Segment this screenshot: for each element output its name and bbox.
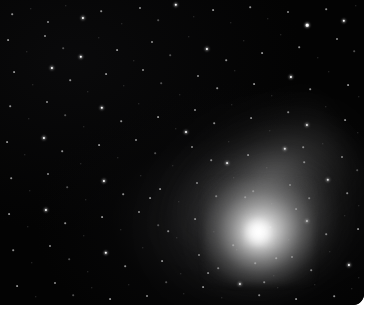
star (72, 294, 74, 296)
star (103, 180, 105, 182)
star (212, 9, 214, 11)
star (269, 130, 270, 131)
star (197, 75, 199, 77)
star (180, 273, 181, 274)
star (68, 258, 70, 260)
star (344, 215, 345, 216)
star (121, 23, 122, 24)
star (87, 271, 88, 272)
star (45, 209, 47, 211)
star (275, 257, 277, 259)
star (351, 288, 352, 289)
star (302, 146, 304, 148)
star (347, 84, 349, 86)
star (128, 284, 129, 285)
star (336, 38, 338, 40)
star (357, 132, 358, 133)
star (35, 296, 36, 297)
star (64, 222, 66, 224)
star (325, 8, 327, 10)
star (183, 293, 184, 294)
star (357, 228, 359, 230)
star (258, 294, 260, 296)
star (306, 24, 309, 27)
star (185, 131, 187, 133)
star (215, 195, 217, 197)
star (207, 272, 209, 274)
star (298, 46, 300, 48)
star (98, 37, 99, 38)
star (13, 71, 15, 73)
star (175, 128, 176, 129)
star (329, 251, 330, 252)
star (322, 143, 323, 144)
star (101, 216, 103, 218)
star (269, 226, 271, 228)
page-root (0, 0, 386, 323)
star (310, 269, 312, 271)
star (157, 19, 159, 21)
star (232, 244, 234, 246)
astrophoto-plate (0, 0, 364, 305)
star (280, 34, 281, 35)
star (26, 51, 27, 52)
star (142, 247, 143, 248)
star (244, 196, 246, 198)
star (82, 17, 84, 19)
star (333, 295, 335, 297)
star (356, 169, 358, 171)
star (69, 79, 71, 81)
star (193, 16, 194, 17)
star (179, 94, 180, 95)
star (225, 59, 227, 61)
star (217, 267, 219, 269)
star (194, 218, 196, 220)
star (6, 141, 8, 143)
star (234, 70, 235, 71)
star (30, 8, 31, 9)
star (43, 137, 45, 139)
star (167, 230, 169, 232)
star (109, 298, 111, 300)
star (61, 150, 63, 152)
star (105, 252, 107, 254)
star (295, 298, 297, 300)
star (191, 146, 193, 148)
star (11, 13, 13, 15)
star (346, 192, 348, 194)
star (358, 205, 359, 206)
star (213, 231, 214, 232)
star (341, 156, 343, 158)
star (317, 57, 318, 58)
star (226, 162, 228, 164)
star (253, 83, 255, 85)
star (87, 91, 88, 92)
star (348, 264, 350, 266)
star (83, 235, 84, 236)
star (124, 265, 126, 267)
star (287, 111, 289, 113)
star (154, 152, 156, 154)
star (196, 182, 198, 184)
star (261, 52, 263, 54)
star (105, 73, 107, 75)
star (138, 211, 140, 213)
star (49, 245, 51, 247)
star (243, 40, 244, 41)
star (151, 41, 153, 43)
star (271, 203, 272, 204)
star (290, 76, 292, 78)
star (101, 107, 103, 109)
star-field (0, 0, 364, 305)
star (288, 239, 289, 240)
star (284, 148, 286, 150)
star (9, 105, 11, 107)
star (250, 213, 251, 214)
star (135, 139, 137, 141)
star (254, 262, 256, 264)
star (66, 186, 68, 188)
star (47, 21, 49, 23)
star (252, 190, 254, 192)
star (91, 287, 92, 288)
star (65, 5, 66, 6)
